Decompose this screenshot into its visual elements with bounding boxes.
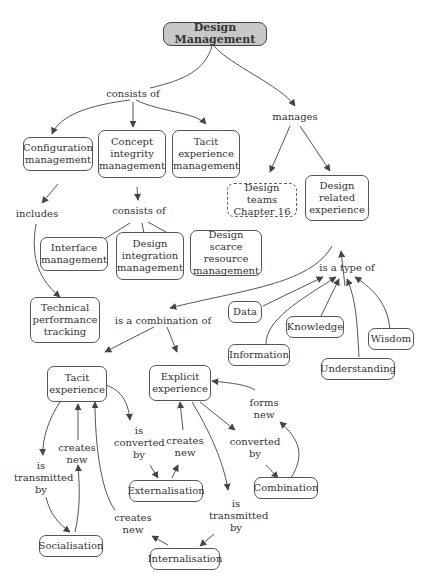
link-is-converted-by: is converted by (114, 425, 164, 461)
node-information[interactable]: Information (228, 344, 290, 366)
link-is-transmitted-by-tacit: is transmitted by (14, 460, 68, 496)
link-is-a-combination-of: is a combination of (115, 315, 211, 327)
link-is-transmitted-by-explicit: is transmitted by (209, 498, 263, 534)
node-explicit-experience[interactable]: Explicit experience (149, 365, 211, 401)
node-combination[interactable]: Combination (254, 477, 318, 499)
node-knowledge[interactable]: Knowledge (286, 316, 344, 338)
node-interface-management[interactable]: Interface management (40, 237, 108, 271)
link-forms-new: forms new (244, 397, 284, 421)
link-consists-of: consists of (106, 88, 160, 100)
link-manages: manages (272, 111, 317, 123)
link-creates-new-internalisation: creates new (113, 512, 153, 536)
node-externalisation[interactable]: Externalisation (129, 480, 203, 502)
node-concept-integrity-management[interactable]: Concept integrity management (98, 130, 166, 178)
link-includes: includes (16, 208, 58, 220)
node-design-management[interactable]: Design Management (163, 22, 267, 46)
node-configuration-management[interactable]: Configuration management (23, 137, 93, 171)
link-creates-new-externalisation: creates new (165, 435, 205, 459)
node-internalisation[interactable]: Internalisation (150, 548, 220, 570)
node-design-related-experience[interactable]: Design related experience (305, 175, 369, 221)
concept-map: Design Management Configuration manageme… (0, 0, 431, 588)
node-design-teams-chapter-16[interactable]: Design teams Chapter 16 (227, 183, 297, 217)
link-is-a-type-of: is a type of (319, 262, 375, 274)
node-tacit-experience[interactable]: Tacit experience (47, 366, 107, 402)
node-design-integration-management[interactable]: Design integration management (116, 232, 184, 280)
node-technical-performance-tracking[interactable]: Technical performance tracking (30, 297, 100, 343)
node-data[interactable]: Data (228, 301, 262, 323)
node-socialisation[interactable]: Socialisation (39, 535, 103, 557)
link-converted-by: converted by (228, 436, 282, 460)
node-design-scarce-resource-management[interactable]: Design scarce resource management (190, 230, 262, 276)
node-wisdom[interactable]: Wisdom (368, 328, 414, 350)
node-understanding[interactable]: Understanding (321, 358, 395, 380)
link-consists-of-2: consists of (112, 205, 166, 217)
node-tacit-experience-management[interactable]: Tacit experience management (172, 130, 240, 178)
